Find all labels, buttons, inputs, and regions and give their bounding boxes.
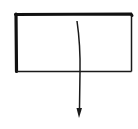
box-shape	[16, 14, 133, 72]
down-arrow-icon	[77, 21, 83, 118]
diagram-canvas	[0, 0, 138, 129]
